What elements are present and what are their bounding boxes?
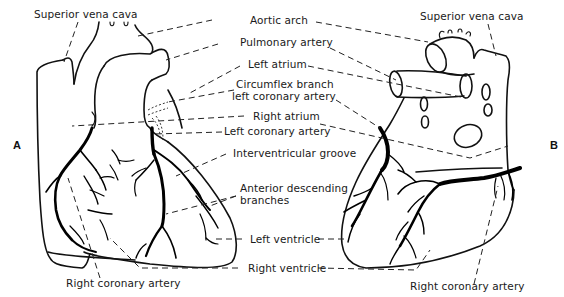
label-pulmonary-artery: Pulmonary artery — [240, 36, 333, 48]
panel-label-b: B — [550, 139, 558, 151]
label-circumflex-branch-1: Circumflex branch — [236, 78, 334, 90]
label-left-atrium: Left atrium — [248, 58, 307, 70]
label-right-coronary-artery-left: Right coronary artery — [66, 277, 181, 289]
heart-a-outline — [37, 22, 236, 268]
coronary-heart-diagram: A B Superior vena cava Aortic arch Super… — [0, 0, 564, 297]
label-superior-vena-cava-right: Superior vena cava — [420, 10, 524, 22]
heart-a-coronary-arteries — [46, 128, 218, 258]
label-superior-vena-cava-left: Superior vena cava — [34, 8, 138, 20]
label-anterior-descending-1: Anterior descending — [240, 182, 348, 194]
panel-label-a: A — [13, 139, 21, 151]
label-aortic-arch: Aortic arch — [250, 14, 308, 26]
label-right-atrium: Right atrium — [253, 110, 320, 122]
label-anterior-descending-2: branches — [240, 194, 289, 206]
label-right-ventricle: Right ventricle — [248, 262, 326, 274]
label-left-coronary-artery: Left coronary artery — [224, 125, 331, 137]
label-right-coronary-artery-right: Right coronary artery — [410, 280, 525, 292]
label-circumflex-branch-2: left coronary artery — [232, 90, 336, 102]
heart-b-coronary-arteries — [344, 128, 520, 264]
label-interventricular-groove: Interventricular groove — [233, 147, 356, 159]
label-left-ventricle: Left ventricle — [250, 233, 320, 245]
